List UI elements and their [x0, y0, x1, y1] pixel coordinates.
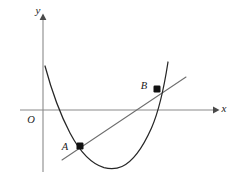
- origin-label: O: [27, 114, 35, 125]
- y-axis-label: y: [35, 4, 41, 16]
- x-axis-label: x: [221, 102, 227, 114]
- point-b-label: B: [141, 80, 148, 91]
- y-axis-arrowhead-icon: [40, 14, 47, 21]
- point-a-label: A: [61, 141, 69, 152]
- point-a-marker: [77, 143, 84, 150]
- math-figure-canvas: y x O A B: [0, 0, 235, 176]
- parabola-curve: [45, 62, 168, 169]
- figure-svg: y x O A B: [0, 0, 235, 176]
- x-axis-arrowhead-icon: [213, 106, 220, 113]
- point-b-marker: [154, 86, 161, 93]
